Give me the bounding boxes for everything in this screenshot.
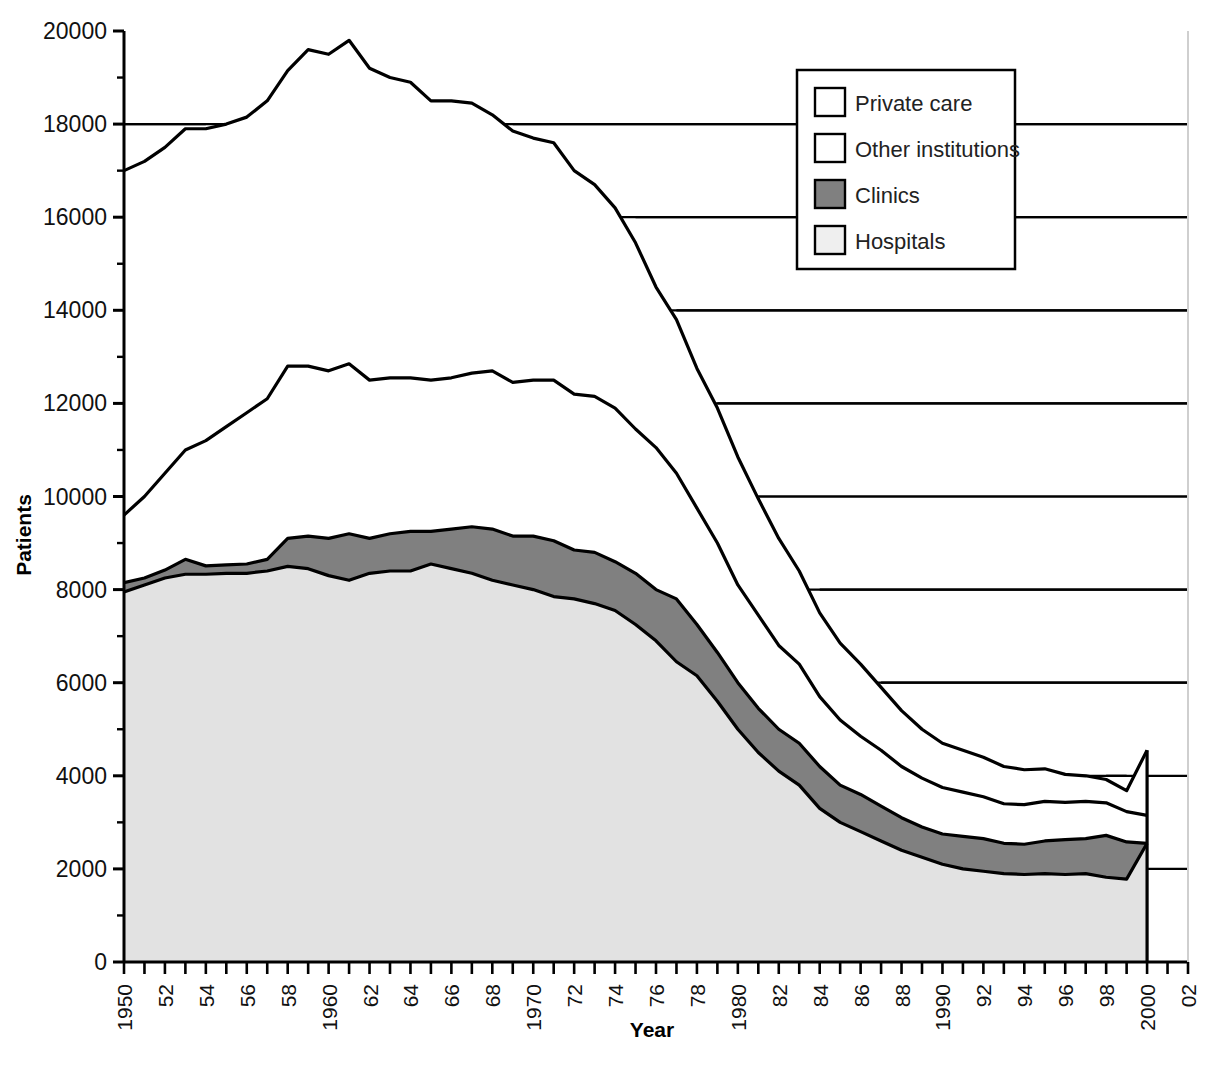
x-tick-label: 64: [399, 984, 422, 1008]
x-tick-label: 76: [645, 984, 668, 1007]
legend-label-hospitals: Hospitals: [855, 229, 945, 254]
x-axis-ticks: [124, 962, 1188, 974]
y-tick-label: 14000: [43, 297, 107, 323]
y-tick-label: 16000: [43, 204, 107, 230]
y-tick-label: 0: [94, 949, 107, 975]
x-tick-label: 1970: [522, 984, 545, 1031]
x-tick-label: 84: [809, 984, 832, 1008]
x-tick-label: 62: [359, 984, 382, 1007]
x-tick-label: 68: [481, 984, 504, 1007]
x-tick-label: 74: [604, 984, 627, 1008]
legend-swatch-private-care[interactable]: [815, 88, 845, 116]
x-tick-label: 1960: [318, 984, 341, 1031]
x-tick-label: 92: [972, 984, 995, 1007]
legend-swatch-other-institutions[interactable]: [815, 134, 845, 162]
y-tick-label: 12000: [43, 390, 107, 416]
x-tick-label: 78: [686, 984, 709, 1007]
legend[interactable]: Private careOther institutionsClinicsHos…: [797, 70, 1020, 269]
figure-container: 0200040006000800010000120001400016000180…: [0, 0, 1214, 1073]
y-tick-label: 6000: [56, 670, 107, 696]
legend-label-clinics: Clinics: [855, 183, 920, 208]
x-axis-title: Year: [630, 1018, 674, 1041]
legend-swatch-hospitals[interactable]: [815, 226, 845, 254]
x-tick-label: 96: [1054, 984, 1077, 1007]
x-tick-label: 58: [277, 984, 300, 1007]
y-axis-tick-labels: 0200040006000800010000120001400016000180…: [43, 18, 107, 975]
y-tick-label: 8000: [56, 577, 107, 603]
legend-label-other-institutions: Other institutions: [855, 137, 1020, 162]
x-tick-label: 94: [1013, 984, 1036, 1008]
stacked-area-chart: 0200040006000800010000120001400016000180…: [0, 0, 1214, 1073]
y-tick-label: 4000: [56, 763, 107, 789]
x-tick-label: 88: [891, 984, 914, 1007]
legend-swatch-clinics[interactable]: [815, 180, 845, 208]
x-tick-label: 98: [1095, 984, 1118, 1007]
y-tick-label: 2000: [56, 856, 107, 882]
x-tick-label: 2000: [1136, 984, 1159, 1031]
y-axis-title: Patients: [12, 494, 35, 576]
x-tick-label: 1990: [931, 984, 954, 1031]
y-tick-label: 10000: [43, 484, 107, 510]
legend-label-private-care: Private care: [855, 91, 972, 116]
x-tick-label: 66: [440, 984, 463, 1007]
y-tick-label: 18000: [43, 111, 107, 137]
y-axis-ticks: [113, 31, 124, 962]
x-tick-label: 82: [768, 984, 791, 1007]
x-tick-label: 1980: [727, 984, 750, 1031]
x-tick-label: 1950: [113, 984, 136, 1031]
x-tick-label: 72: [563, 984, 586, 1007]
x-tick-label: 54: [195, 984, 218, 1008]
x-tick-label: 52: [154, 984, 177, 1007]
x-tick-label: 86: [850, 984, 873, 1007]
x-tick-label: 56: [236, 984, 259, 1007]
y-tick-label: 20000: [43, 18, 107, 44]
x-tick-label: 02: [1177, 984, 1200, 1007]
